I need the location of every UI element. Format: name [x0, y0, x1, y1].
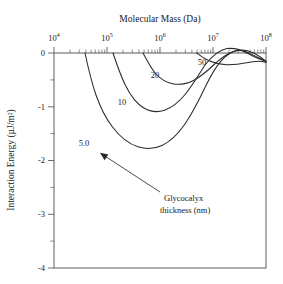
annotation-line-2: thickness (nm) — [160, 205, 210, 215]
x-tick-label-text: 107 — [207, 32, 219, 43]
x-tick-label-text: 108 — [260, 32, 272, 43]
annotation-arrow-head — [100, 153, 108, 160]
data-curves — [85, 48, 266, 148]
curve-20 — [143, 50, 266, 84]
annotation-arrow — [100, 153, 160, 192]
y-tick-label-text: -3 — [38, 209, 45, 219]
curve-label-20: 20 — [151, 70, 160, 80]
y-tick-label-text: 0 — [41, 48, 45, 58]
x-tick-label-text: 105 — [101, 32, 113, 43]
plot-frame — [54, 53, 266, 268]
annotation-arrow-line — [103, 155, 161, 193]
figure-container: Molecular Mass (Da) Interaction Energy (… — [0, 0, 283, 284]
x-axis-title: Molecular Mass (Da) — [119, 14, 200, 25]
x-tick-label-text: 106 — [154, 32, 166, 43]
y-tick-label-text: -2 — [38, 155, 45, 165]
curve-label-5: 5.0 — [79, 138, 90, 148]
x-tick-labels: 104 105 106 107 108 — [48, 32, 272, 43]
curve-label-50: 50 — [198, 57, 207, 67]
y-tick-label-text: -4 — [38, 263, 46, 273]
y-tick-labels: 0 -1 -2 -3 -4 — [38, 48, 46, 273]
annotation-text: Glycocalyx thickness (nm) — [160, 193, 210, 215]
curve-label-10: 10 — [118, 97, 127, 107]
x-tick-label: 107 — [207, 32, 219, 43]
interaction-energy-chart: Molecular Mass (Da) Interaction Energy (… — [0, 0, 283, 284]
curve-5.0 — [85, 50, 266, 148]
y-axis-ticks — [48, 53, 54, 268]
x-tick-label: 106 — [154, 32, 166, 43]
x-tick-label: 104 — [48, 32, 60, 43]
x-tick-label-text: 104 — [48, 32, 60, 43]
curve-10 — [113, 48, 266, 111]
x-tick-label: 108 — [260, 32, 272, 43]
curve-labels: 5.0 10 20 50 — [79, 57, 207, 148]
x-tick-label: 105 — [101, 32, 113, 43]
y-tick-label-text: -1 — [38, 102, 45, 112]
annotation-line-1: Glycocalyx — [164, 193, 204, 203]
y-axis-title: Interaction Energy (µJ/m²) — [6, 109, 17, 211]
